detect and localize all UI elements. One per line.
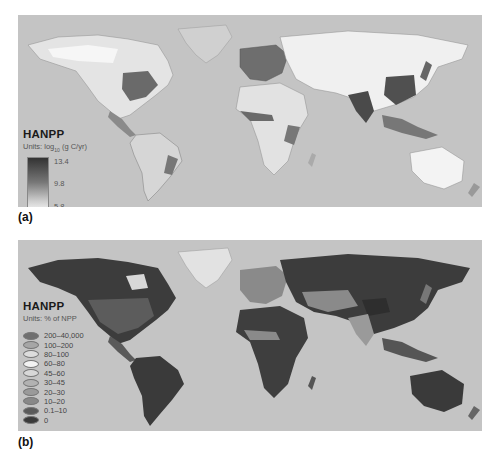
legend-b-units: Units: % of NPP [23, 314, 123, 323]
map-panel-a: HANPP Units: log10 (g C/yr) 13.4 9.8 5.8… [18, 15, 482, 207]
legend-b-classes: 200–40,000100–20080–10060–8045–6030–4520… [23, 331, 123, 425]
legend-swatch-icon [23, 341, 39, 349]
legend-class-label: 10–20 [44, 397, 65, 406]
legend-class: 0 [23, 416, 123, 425]
legend-swatch-icon [23, 416, 39, 424]
legend-a-units: Units: log10 (g C/yr) [23, 142, 123, 153]
legend-class-label: 30–45 [44, 378, 65, 387]
legend-a-title: HANPP [23, 128, 123, 140]
legend-class: 20–30 [23, 387, 123, 396]
legend-swatch-icon [23, 379, 39, 387]
legend-b: HANPP Units: % of NPP 200–40,000100–2008… [23, 300, 123, 425]
map-panel-b: HANPP Units: % of NPP 200–40,000100–2008… [18, 240, 482, 431]
legend-class-label: 80–100 [44, 350, 69, 359]
legend-swatch-icon [23, 350, 39, 358]
tick-mid: 9.8 [54, 179, 64, 188]
legend-swatch-icon [23, 388, 39, 396]
legend-class-label: 20–30 [44, 388, 65, 397]
legend-class-label: 45–60 [44, 369, 65, 378]
gradient-bar [27, 157, 49, 208]
legend-class: 30–45 [23, 378, 123, 387]
legend-swatch-icon [23, 397, 39, 405]
legend-class: 100–200 [23, 340, 123, 349]
legend-swatch-icon [23, 360, 39, 368]
legend-class-label: 60–80 [44, 359, 65, 368]
legend-class-label: 0 [44, 416, 48, 425]
panel-label-b: (b) [18, 435, 33, 449]
legend-b-title: HANPP [23, 300, 123, 312]
panel-label-a: (a) [18, 210, 33, 224]
legend-swatch-icon [23, 369, 39, 377]
legend-swatch-icon [23, 332, 39, 340]
legend-class: 80–100 [23, 350, 123, 359]
tick-high: 13.4 [54, 157, 69, 166]
legend-class: 45–60 [23, 369, 123, 378]
color-ramp: 13.4 9.8 5.8 [23, 157, 123, 208]
legend-class: 200–40,000 [23, 331, 123, 340]
tick-low: 5.8 [54, 202, 64, 208]
legend-class: 60–80 [23, 359, 123, 368]
legend-class: 0.1–10 [23, 406, 123, 415]
legend-class-label: 100–200 [44, 341, 73, 350]
legend-class: 10–20 [23, 397, 123, 406]
legend-swatch-icon [23, 407, 39, 415]
legend-class-label: 0.1–10 [44, 406, 67, 415]
legend-a: HANPP Units: log10 (g C/yr) 13.4 9.8 5.8… [23, 128, 123, 207]
legend-class-label: 200–40,000 [44, 331, 84, 340]
